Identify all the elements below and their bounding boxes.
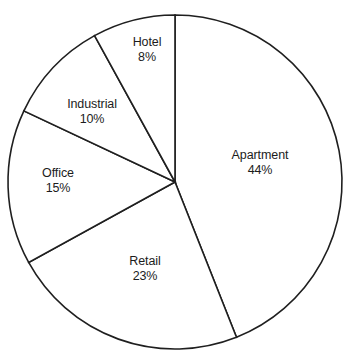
pie-label-value: 23% <box>129 269 160 284</box>
pie-label-industrial: Industrial10% <box>67 97 117 127</box>
pie-label-value: 10% <box>67 112 117 127</box>
pie-label-category: Hotel <box>133 35 162 50</box>
pie-label-value: 8% <box>133 50 162 65</box>
pie-label-hotel: Hotel8% <box>133 35 162 65</box>
pie-label-value: 15% <box>42 181 74 196</box>
pie-label-retail: Retail23% <box>129 254 160 284</box>
pie-chart: Apartment44%Retail23%Office15%Industrial… <box>0 0 349 363</box>
pie-label-category: Industrial <box>67 97 117 112</box>
pie-label-category: Apartment <box>232 148 289 163</box>
pie-label-office: Office15% <box>42 166 74 196</box>
pie-label-category: Office <box>42 166 74 181</box>
pie-label-apartment: Apartment44% <box>232 148 289 178</box>
pie-label-category: Retail <box>129 254 160 269</box>
pie-label-value: 44% <box>232 163 289 178</box>
